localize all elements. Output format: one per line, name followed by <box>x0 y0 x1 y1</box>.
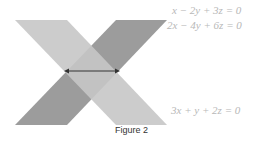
equation-2: 2x − 4y + 6z = 0 <box>167 19 242 31</box>
equation-3: 3x + y + 2z = 0 <box>171 104 240 116</box>
figure-caption: Figure 2 <box>115 125 148 135</box>
equation-1: x − 2y + 3z = 0 <box>172 4 241 16</box>
